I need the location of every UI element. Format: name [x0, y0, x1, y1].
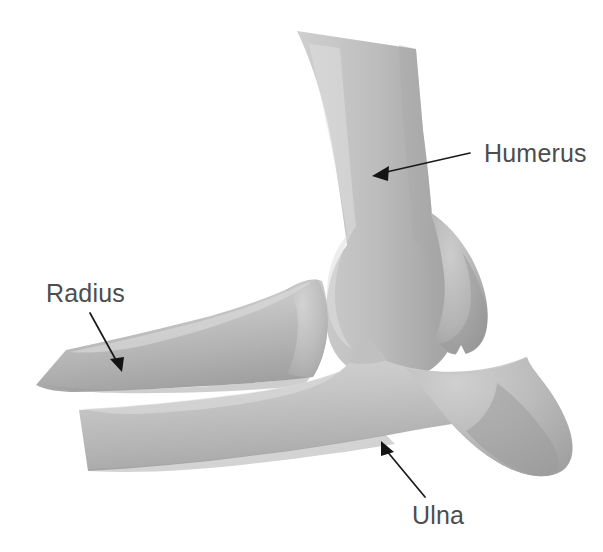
humerus-label-text: Humerus — [484, 139, 587, 167]
ulna-label-text: Ulna — [412, 501, 464, 529]
radius-label-text: Radius — [46, 279, 125, 307]
anatomy-figure: Humerus Radius Ulna — [0, 0, 603, 552]
ulna-leader-line — [386, 450, 425, 497]
label-ulna[interactable]: Ulna — [381, 441, 464, 529]
elbow-bone-illustration: Humerus Radius Ulna — [0, 0, 603, 552]
